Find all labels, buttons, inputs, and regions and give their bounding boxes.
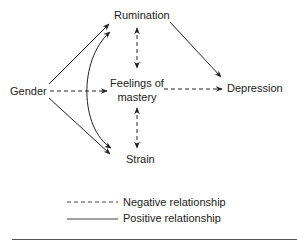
node-strain: Strain [126,153,155,166]
edge-gender-rumination [49,24,109,84]
node-mastery-line2: mastery [109,91,165,104]
node-mastery-line1: Feelings of [109,77,165,90]
node-gender: Gender [10,85,47,98]
legend-positive-label: Positive relationship [123,212,221,225]
bottom-rule [12,239,297,240]
legend-negative-label: Negative relationship [123,196,226,209]
edge-rumination-strain-curve [87,32,111,148]
node-depression: Depression [227,82,283,95]
node-rumination: Rumination [114,9,170,22]
edge-gender-strain [49,98,110,154]
edge-rumination-depression [170,22,221,77]
